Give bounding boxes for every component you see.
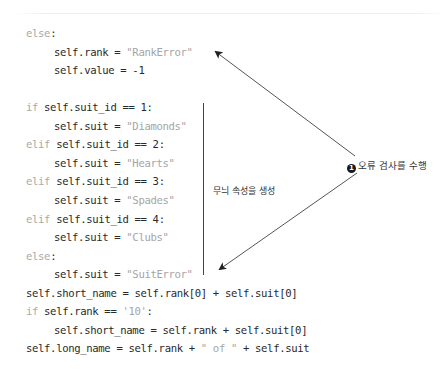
callout-number-icon: 1: [347, 164, 356, 173]
suit-attr-label: 무늬 속성을 생성: [213, 186, 275, 196]
suit-attr-annotation: 무늬 속성을 생성: [213, 184, 275, 197]
arrow-to-rank-error: [216, 52, 355, 156]
error-check-annotation: 1오류 검사를 수행: [347, 158, 427, 173]
error-check-label: 오류 검사를 수행: [358, 160, 427, 171]
